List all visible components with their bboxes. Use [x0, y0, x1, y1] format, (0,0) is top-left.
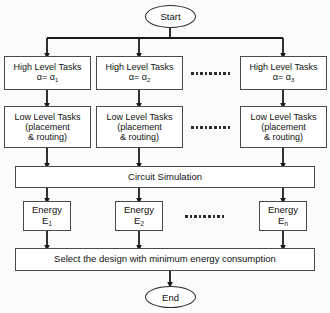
flowchart-canvas: Start High Level Tasks α= α1 High Level …	[0, 0, 330, 313]
end-label: End	[162, 292, 179, 303]
circuit-simulation-box: Circuit Simulation	[15, 166, 315, 188]
ellipsis-high-level-row	[191, 72, 230, 75]
energy-symbol-3: En	[278, 216, 288, 227]
high-level-tasks-param-3: α= α3	[273, 72, 294, 83]
low-level-tasks-line2-3: (placement	[261, 122, 306, 132]
select-design-label: Select the design with minimum energy co…	[54, 254, 276, 265]
high-level-tasks-label-3: High Level Tasks	[250, 62, 318, 72]
low-level-tasks-line1-1: Low Level Tasks	[15, 112, 81, 122]
low-level-tasks-line1-3: Low Level Tasks	[251, 112, 317, 122]
start-terminator: Start	[145, 5, 196, 28]
energy-box-3: Energy En	[259, 201, 307, 231]
high-level-tasks-param-2: α= α2	[129, 72, 150, 83]
low-level-tasks-line2-1: (placement	[25, 122, 70, 132]
low-level-tasks-box-1: Low Level Tasks (placement & routing)	[4, 106, 91, 148]
low-level-tasks-line1-2: Low Level Tasks	[107, 112, 173, 122]
energy-box-1: Energy E1	[23, 201, 71, 231]
low-level-tasks-box-2: Low Level Tasks (placement & routing)	[96, 106, 183, 148]
energy-box-2: Energy E2	[115, 201, 163, 231]
low-level-tasks-box-3: Low Level Tasks (placement & routing)	[240, 106, 327, 148]
select-design-box: Select the design with minimum energy co…	[15, 248, 315, 271]
ellipsis-low-level-row	[191, 126, 230, 129]
high-level-tasks-label-1: High Level Tasks	[14, 62, 82, 72]
low-level-tasks-line3-2: & routing)	[120, 132, 159, 142]
start-label: Start	[160, 11, 180, 22]
low-level-tasks-line3-1: & routing)	[28, 132, 67, 142]
energy-symbol-1: E1	[42, 216, 52, 227]
ellipsis-energy-row	[185, 215, 224, 218]
energy-symbol-2: E2	[134, 216, 144, 227]
high-level-tasks-box-1: High Level Tasks α= α1	[4, 56, 91, 90]
high-level-tasks-box-2: High Level Tasks α= α2	[96, 56, 183, 90]
high-level-tasks-label-2: High Level Tasks	[106, 62, 174, 72]
low-level-tasks-line3-3: & routing)	[264, 132, 303, 142]
low-level-tasks-line2-2: (placement	[117, 122, 162, 132]
high-level-tasks-box-3: High Level Tasks α= α3	[240, 56, 327, 90]
circuit-simulation-label: Circuit Simulation	[128, 172, 202, 183]
high-level-tasks-param-1: α= α1	[37, 72, 58, 83]
end-terminator: End	[145, 286, 196, 308]
